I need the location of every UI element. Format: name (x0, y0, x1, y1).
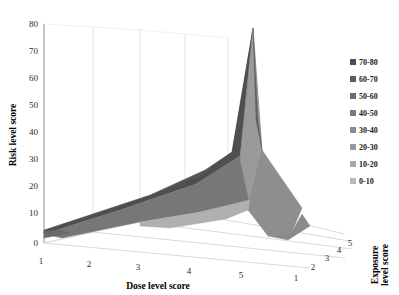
grid-top-connector-4 (185, 34, 228, 38)
legend-label-40-50: 40-50 (359, 109, 378, 118)
surface-mesh (44, 28, 310, 240)
legend-label-0-10: 0-10 (359, 177, 374, 186)
legend-swatch-30-40 (350, 127, 356, 133)
x-tick-3: 3 (136, 262, 141, 272)
legend-swatch-60-70 (350, 76, 356, 82)
legend-label-60-70: 60-70 (359, 75, 378, 84)
legend-swatch-40-50 (350, 110, 356, 116)
z-axis-title: Exposure level score (370, 244, 390, 286)
legend-item-20-30[interactable]: 20-30 (350, 143, 378, 152)
y-axis-title: Risk level score (8, 104, 18, 167)
legend-item-60-70[interactable]: 60-70 (350, 75, 378, 84)
x-axis-ticks: 1 2 3 4 5 (39, 256, 244, 280)
y-tick-0: 0 (34, 238, 39, 248)
z-axis-title-line1: Exposure (370, 246, 380, 284)
z-tick-5: 5 (348, 238, 353, 248)
y-tick-80: 80 (29, 19, 39, 29)
x-axis-title: Dose level score (126, 281, 190, 291)
x-tick-4: 4 (187, 266, 192, 276)
z-axis-ticks: 1 2 3 4 5 (294, 238, 353, 283)
y-tick-40: 40 (29, 127, 39, 137)
legend-item-10-20[interactable]: 10-20 (350, 160, 378, 169)
legend-item-30-40[interactable]: 30-40 (350, 126, 378, 135)
legend-swatch-0-10 (350, 178, 356, 184)
y-tick-10: 10 (29, 208, 39, 218)
legend-swatch-10-20 (350, 161, 356, 167)
legend-label-10-20: 10-20 (359, 160, 378, 169)
legend-swatch-70-80 (350, 59, 356, 65)
legend-swatch-50-60 (350, 93, 356, 99)
grid-top-connector-3 (140, 30, 185, 34)
y-tick-20: 20 (29, 181, 39, 191)
legend-swatch-20-30 (350, 144, 356, 150)
legend-item-0-10[interactable]: 0-10 (350, 177, 374, 186)
z-tick-2: 2 (311, 262, 316, 272)
legend-label-70-80: 70-80 (359, 58, 378, 67)
legend-label-30-40: 30-40 (359, 126, 378, 135)
x-tick-5: 5 (239, 270, 244, 280)
x-tick-2: 2 (87, 259, 92, 269)
grid-top-connector-2 (93, 27, 140, 30)
grid-top-connector-1 (44, 24, 93, 27)
x-tick-1: 1 (39, 256, 44, 266)
legend-label-20-30: 20-30 (359, 143, 378, 152)
z-tick-4: 4 (337, 245, 342, 255)
legend-item-50-60[interactable]: 50-60 (350, 92, 378, 101)
chart-canvas: 80 70 60 50 40 30 20 10 0 Risk level sco… (0, 0, 399, 295)
y-tick-60: 60 (29, 73, 39, 83)
floor-line-1 (93, 232, 345, 258)
legend-item-40-50[interactable]: 40-50 (350, 109, 378, 118)
legend-item-70-80[interactable]: 70-80 (350, 58, 378, 67)
y-tick-50: 50 (29, 100, 39, 110)
y-tick-70: 70 (29, 46, 39, 56)
z-tick-1: 1 (294, 273, 299, 283)
y-tick-30: 30 (29, 154, 39, 164)
y-axis-ticks: 80 70 60 50 40 30 20 10 0 (29, 19, 39, 248)
z-axis-title-line2: level score (380, 244, 390, 286)
legend: 70-80 60-70 50-60 40-50 30-40 20-30 (350, 58, 378, 186)
surface-chart: 80 70 60 50 40 30 20 10 0 Risk level sco… (0, 0, 399, 295)
floor-front-edge (44, 243, 310, 268)
legend-label-50-60: 50-60 (359, 92, 378, 101)
z-tick-3: 3 (325, 253, 330, 263)
